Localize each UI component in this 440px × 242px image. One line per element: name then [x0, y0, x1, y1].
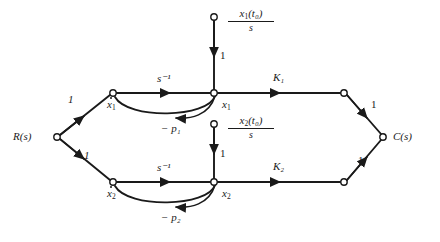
branch-feedback1 [115, 96, 215, 113]
branch-label-feedback2: − p₂ [161, 212, 181, 223]
ic1-denominator: s [228, 22, 274, 33]
node-junction-2 [341, 179, 347, 185]
branch-label-integrator1: s⁻¹ [157, 73, 171, 84]
node-source-ic1 [211, 14, 217, 20]
arrow-feedback1 [176, 96, 215, 118]
node-label-x2: x2 [222, 188, 231, 200]
branch-feedback2 [115, 185, 215, 202]
ic1-numerator: x1(t₀) [228, 8, 274, 21]
xdot1-sub: 1 [112, 103, 116, 112]
node-x1 [211, 90, 217, 96]
node-label-xdot1: x1 [107, 99, 116, 111]
node-source-ic2 [211, 121, 217, 127]
x2-sub: 2 [227, 192, 231, 201]
branch-label-j2-to-c: 1 [358, 155, 364, 166]
branch-label-r-to-xdot1: 1 [68, 94, 74, 105]
ic2-num-arg: (t₀) [248, 114, 262, 126]
node-label-x1: x1 [222, 99, 231, 111]
branch-label-ic1-gain: 1 [220, 50, 226, 61]
branch-label-gain-k1: K₁ [273, 72, 284, 83]
branch-label-j1-to-c: 1 [371, 99, 377, 110]
node-label-xdot2: x2 [107, 188, 116, 200]
branch-label-r-to-xdot2: 1 [84, 150, 90, 161]
ic2-denominator: s [228, 129, 274, 140]
x1-sub: 1 [227, 103, 231, 112]
arrow-j1-to-c [347, 95, 367, 118]
node-xdot1 [110, 90, 116, 96]
signal-flow-graph-canvas [0, 0, 440, 242]
arrow-feedback2 [176, 185, 215, 207]
branch-label-feedback1: − p₁ [161, 123, 181, 134]
branch-label-ic2-gain: 1 [220, 148, 226, 159]
node-junction-1 [341, 90, 347, 96]
ic2-numerator: x2(t₀) [228, 115, 274, 128]
arrow-j2-to-c [347, 157, 367, 180]
branch-label-gain-k2: K₂ [273, 161, 284, 172]
branch-label-integrator2: s⁻¹ [157, 162, 171, 173]
node-label-input: R(s) [13, 131, 31, 142]
signal-flow-graph-figure: R(s) C(s) x1 x1 x2 x2 1 1 s⁻¹ s⁻¹ K₁ K₂ … [0, 0, 440, 242]
xdot2-sub: 2 [112, 192, 116, 201]
initial-condition-2-expression: x2(t₀) s [228, 115, 274, 140]
ic1-num-arg: (t₀) [248, 7, 262, 19]
node-xdot2 [110, 179, 116, 185]
arrow-r-to-xdot1 [60, 116, 84, 135]
node-output-cs [380, 134, 386, 140]
node-input-rs [54, 134, 60, 140]
arrow-r-to-xdot2 [60, 139, 84, 159]
node-x2 [211, 179, 217, 185]
node-label-output: C(s) [393, 131, 412, 142]
initial-condition-1-expression: x1(t₀) s [228, 8, 274, 33]
xdot1-dot-accent [110, 97, 112, 99]
xdot2-dot-accent [110, 186, 112, 188]
